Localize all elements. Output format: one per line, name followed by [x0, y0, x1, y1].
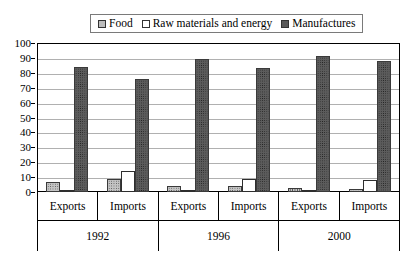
y-axis-tick-label: 60: [20, 97, 31, 108]
y-axis: 1009080706050403020100: [0, 43, 35, 192]
manufactures-swatch-icon: [281, 20, 289, 28]
y-axis-tick-label: 10: [20, 172, 31, 183]
y-axis-tick-label: 90: [20, 52, 31, 63]
category-label: Exports: [279, 192, 339, 220]
raw-materials-swatch-icon: [142, 20, 150, 28]
bar-group: [219, 43, 280, 192]
bar-man: [135, 79, 149, 192]
bar-man: [377, 61, 391, 192]
legend-label-food: Food: [109, 17, 133, 30]
bar-group: [340, 43, 401, 192]
y-axis-tick-mark: [31, 88, 35, 89]
y-axis-tick-mark: [31, 103, 35, 104]
group-axis: 199219962000: [37, 220, 400, 251]
bar-man: [316, 56, 330, 192]
category-label: Imports: [340, 192, 399, 220]
bar-food: [46, 182, 60, 192]
bar-man: [256, 68, 270, 192]
category-label: Exports: [159, 192, 219, 220]
y-axis-tick-label: 40: [20, 127, 31, 138]
category-label: Imports: [219, 192, 279, 220]
legend-label-raw-materials: Raw materials and energy: [153, 17, 273, 30]
legend-item-food: Food: [98, 17, 133, 30]
category-axis: ExportsImportsExportsImportsExportsImpor…: [37, 192, 400, 220]
y-axis-tick-mark: [31, 162, 35, 163]
y-axis-tick-label: 80: [20, 67, 31, 78]
bar-group: [37, 43, 98, 192]
group-label: 1992: [38, 221, 159, 251]
bar-food: [107, 179, 121, 192]
y-axis-tick-mark: [31, 132, 35, 133]
y-axis-tick-label: 70: [20, 82, 31, 93]
bar-man: [74, 67, 88, 192]
chart-legend: Food Raw materials and energy Manufactur…: [90, 14, 363, 33]
bar-group: [98, 43, 159, 192]
y-axis-tick-label: 50: [20, 112, 31, 123]
legend-item-raw-materials: Raw materials and energy: [142, 17, 273, 30]
bars-layer: [37, 43, 400, 192]
group-label: 1996: [159, 221, 280, 251]
y-axis-tick-mark: [31, 118, 35, 119]
y-axis-tick-mark: [31, 73, 35, 74]
bar-chart: Food Raw materials and energy Manufactur…: [0, 0, 412, 253]
bar-group: [279, 43, 340, 192]
legend-item-manufactures: Manufactures: [281, 17, 355, 30]
bar-raw: [242, 179, 256, 192]
bar-raw: [363, 180, 377, 192]
y-axis-tick-mark: [31, 147, 35, 148]
y-axis-tick-mark: [31, 58, 35, 59]
y-axis-tick-mark: [31, 43, 35, 44]
y-axis-tick-label: 20: [20, 157, 31, 168]
y-axis-tick-label: 30: [20, 142, 31, 153]
category-label: Imports: [98, 192, 158, 220]
y-axis-tick-label: 100: [15, 38, 32, 49]
bar-raw: [121, 171, 135, 192]
y-axis-tick-mark: [31, 177, 35, 178]
food-swatch-icon: [98, 20, 106, 28]
y-axis-tick-mark: [31, 192, 35, 193]
legend-label-manufactures: Manufactures: [292, 17, 355, 30]
bar-man: [195, 59, 209, 192]
category-label: Exports: [38, 192, 98, 220]
bar-group: [158, 43, 219, 192]
group-label: 2000: [279, 221, 399, 251]
